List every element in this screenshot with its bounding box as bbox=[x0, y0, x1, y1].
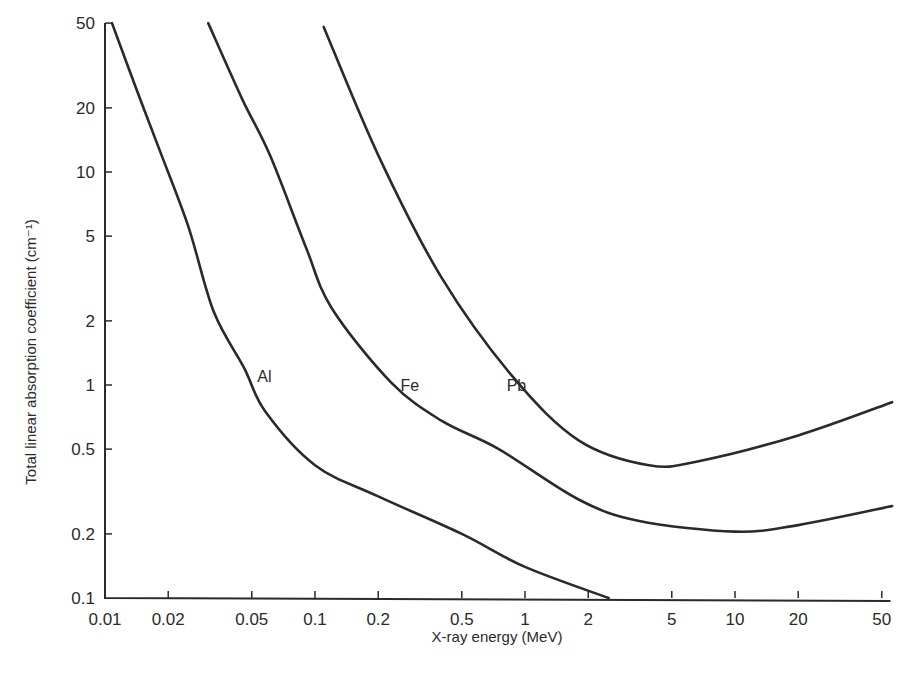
x-tick-label: 20 bbox=[789, 610, 808, 629]
axis-lines bbox=[105, 23, 890, 601]
y-tick-label: 50 bbox=[76, 14, 95, 33]
series-label-pb: Pb bbox=[507, 377, 527, 394]
y-tick-label: 2 bbox=[86, 312, 95, 331]
y-tick-label: 0.2 bbox=[71, 525, 95, 544]
y-tick-label: 0.1 bbox=[71, 589, 95, 608]
x-tick-label: 0.05 bbox=[235, 610, 268, 629]
x-tick-label: 10 bbox=[726, 610, 745, 629]
x-tick-label: 0.1 bbox=[303, 610, 327, 629]
series-labels: AlFePb bbox=[257, 368, 526, 394]
series-label-fe: Fe bbox=[401, 377, 420, 394]
chart: 0.010.020.050.10.20.5125102050 0.10.20.5… bbox=[0, 0, 907, 684]
x-tick-label: 1 bbox=[520, 610, 529, 629]
x-tick-label: 0.02 bbox=[152, 610, 185, 629]
y-tick-label: 0.5 bbox=[71, 440, 95, 459]
x-tick-label: 0.5 bbox=[450, 610, 474, 629]
x-tick-label: 0.2 bbox=[366, 610, 390, 629]
x-axis-title: X-ray energy (MeV) bbox=[432, 628, 563, 645]
x-tick-label: 2 bbox=[583, 610, 592, 629]
curve-fe bbox=[208, 23, 892, 532]
curve-pb bbox=[324, 27, 892, 467]
series-curves bbox=[112, 23, 892, 598]
y-tick-label: 1 bbox=[86, 376, 95, 395]
x-tick-label: 50 bbox=[872, 610, 891, 629]
curve-al bbox=[112, 23, 609, 598]
axes bbox=[105, 23, 890, 601]
x-axis-ticks: 0.010.020.050.10.20.5125102050 bbox=[88, 591, 891, 629]
y-axis-title: Total linear absorption coefficient (cm⁻… bbox=[22, 219, 39, 484]
y-tick-label: 5 bbox=[86, 227, 95, 246]
x-tick-label: 5 bbox=[667, 610, 676, 629]
x-tick-label: 0.01 bbox=[88, 610, 121, 629]
series-label-al: Al bbox=[257, 368, 271, 385]
y-tick-label: 20 bbox=[76, 99, 95, 118]
y-tick-label: 10 bbox=[76, 163, 95, 182]
